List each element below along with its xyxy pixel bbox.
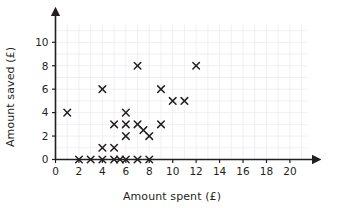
x-tick-label: 8	[146, 165, 153, 177]
x-tick-labels: 02468101214161820	[52, 165, 296, 177]
x-tick-label: 10	[166, 165, 179, 177]
y-tick-label: 8	[42, 60, 49, 72]
x-tick-label: 20	[283, 165, 296, 177]
x-tick-label: 18	[260, 165, 273, 177]
x-tick-label: 12	[189, 165, 202, 177]
grid-lines	[56, 25, 308, 160]
x-tick-label: 0	[52, 165, 59, 177]
x-tick-label: 14	[213, 165, 227, 177]
x-tick-label: 4	[99, 165, 106, 177]
x-tick-label: 16	[236, 165, 250, 177]
y-tick-label: 2	[42, 130, 49, 142]
x-tick-label: 6	[122, 165, 129, 177]
y-tick-label: 6	[42, 83, 49, 95]
y-tick-labels: 0246810	[35, 36, 49, 165]
plot-area: 02468101214161820 0246810 Amount spent (…	[0, 0, 337, 208]
x-tick-label: 2	[76, 165, 83, 177]
x-axis-title: Amount spent (£)	[123, 190, 221, 203]
y-tick-label: 4	[42, 106, 49, 118]
y-tick-label: 10	[35, 36, 48, 48]
scatter-chart: 02468101214161820 0246810 Amount spent (…	[0, 0, 337, 208]
y-axis-title: Amount saved (£)	[4, 47, 17, 147]
y-tick-label: 0	[42, 153, 49, 165]
